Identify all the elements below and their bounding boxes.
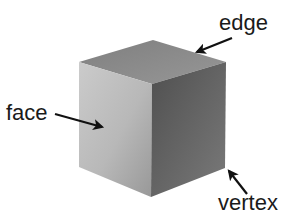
cube-diagram-svg: edge face vertex — [0, 0, 288, 220]
face-label: face — [6, 100, 48, 125]
edge-label: edge — [219, 10, 268, 35]
cube-left-face — [79, 62, 152, 197]
edge-arrow-icon — [197, 38, 232, 52]
vertex-label: vertex — [218, 190, 278, 215]
cube-right-face — [151, 62, 226, 197]
cube-diagram: edge face vertex — [0, 0, 288, 220]
